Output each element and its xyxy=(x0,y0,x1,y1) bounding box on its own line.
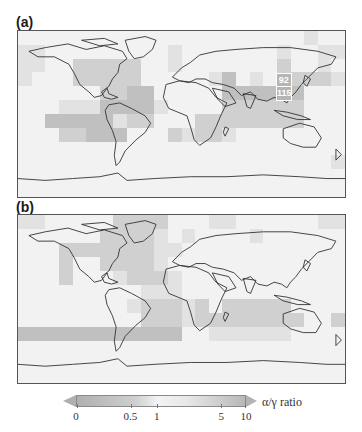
coastline-path xyxy=(18,359,345,366)
coastline-path xyxy=(125,37,156,59)
coastline-path xyxy=(274,295,310,304)
colorbar-tick xyxy=(221,404,222,408)
coastline-path xyxy=(163,265,227,330)
coastline-path xyxy=(223,312,228,321)
coastline-path xyxy=(105,103,150,166)
colorbar-tick-label: 5 xyxy=(219,410,225,422)
colorbar-tick xyxy=(131,404,132,408)
coastline-path xyxy=(274,110,310,119)
colorbar-extend-high-arrow xyxy=(246,395,257,407)
colorbar-tick xyxy=(77,404,78,408)
colorbar-tick-label: 0 xyxy=(73,410,79,422)
coastline-path xyxy=(125,221,156,243)
colorbar-tick-label: 10 xyxy=(241,410,252,422)
map-panel-a: 92115 xyxy=(17,30,346,198)
coastline-path xyxy=(29,228,127,284)
coastline-outline xyxy=(18,215,345,383)
colorbar xyxy=(63,395,258,408)
coastline-path xyxy=(18,173,345,180)
coastline-path xyxy=(29,44,127,99)
coastline-path xyxy=(336,149,341,160)
colorbar-extend-low-arrow xyxy=(63,395,76,407)
station-value-label: 115 xyxy=(276,86,292,101)
colorbar-title: α/γ ratio xyxy=(262,395,302,410)
coastline-path xyxy=(172,232,335,288)
station-value-label: 92 xyxy=(276,73,292,88)
coastline-path xyxy=(105,288,150,351)
coastline-path xyxy=(82,38,118,45)
panel-b-label: (b) xyxy=(16,199,34,215)
coastline-path xyxy=(163,81,227,146)
panel-a-label: (a) xyxy=(16,14,33,30)
colorbar-tick-label: 0.5 xyxy=(124,410,138,422)
coastline-path xyxy=(82,222,118,229)
colorbar-tick xyxy=(157,404,158,408)
coastline-path xyxy=(336,334,341,345)
coastline-path xyxy=(223,127,228,136)
coastline-path xyxy=(172,48,335,103)
coastline-path xyxy=(283,308,321,332)
map-panel-b xyxy=(17,214,346,384)
coastline-outline xyxy=(18,31,345,197)
coastline-path xyxy=(283,123,321,147)
colorbar-gradient xyxy=(76,395,246,407)
colorbar-tick-label: 1 xyxy=(154,410,160,422)
